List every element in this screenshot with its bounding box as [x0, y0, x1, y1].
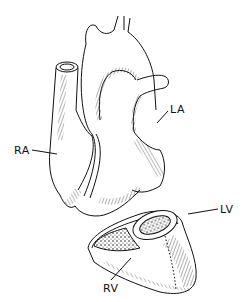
label-right-ventricle: RV	[103, 283, 119, 294]
ra-leader	[32, 150, 57, 154]
lv-leader	[188, 209, 218, 214]
la-leader	[157, 111, 168, 123]
label-left-ventricle: LV	[220, 204, 233, 215]
pulmonary-artery	[133, 75, 168, 132]
heart-illustration	[0, 0, 246, 302]
heart-diagram	[0, 0, 246, 302]
label-left-atrium: LA	[170, 104, 185, 115]
label-right-atrium: RA	[14, 145, 30, 156]
